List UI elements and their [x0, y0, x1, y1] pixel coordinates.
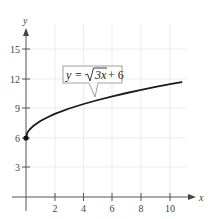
eq-equals: =: [75, 68, 82, 82]
equation-callout: y = 3x + 6: [63, 66, 124, 97]
y-tick-label: 3: [15, 162, 20, 173]
y-tick-label: 12: [10, 74, 20, 85]
eq-radicand: 3x: [94, 68, 107, 82]
y-tick-labels: 3 6 9 12 15: [10, 44, 20, 173]
y-axis-label: y: [22, 15, 28, 26]
x-tick-label: 6: [110, 203, 115, 214]
eq-y: y: [65, 68, 72, 82]
y-tick-label: 9: [15, 103, 20, 114]
x-tick-label: 4: [81, 203, 86, 214]
x-tick-label: 10: [165, 203, 175, 214]
x-axis-arrow-icon: [188, 194, 196, 200]
function-curve: [26, 82, 182, 138]
y-tick-label: 6: [15, 133, 20, 144]
eq-tail: + 6: [108, 68, 124, 82]
x-tick-labels: 2 4 6 8 10: [53, 203, 176, 214]
y-axis-arrow-icon: [23, 28, 29, 36]
x-axis-label: x: [198, 192, 204, 203]
x-tick-label: 2: [53, 203, 58, 214]
function-graph: 2 4 6 8 10 3 6 9 12 15 x y y = 3x + 6: [0, 0, 208, 219]
start-point-marker: [23, 135, 28, 140]
grid: [26, 25, 186, 197]
y-tick-label: 15: [10, 44, 20, 55]
equation-label: y = 3x + 6: [65, 68, 124, 82]
x-tick-label: 8: [139, 203, 144, 214]
